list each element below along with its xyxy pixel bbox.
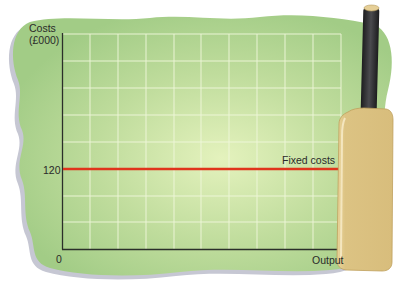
origin-label: 0 xyxy=(56,253,62,265)
x-axis-title: Output xyxy=(312,254,344,266)
fixed-costs-label: Fixed costs xyxy=(282,154,335,166)
chart-panel-background xyxy=(13,15,392,275)
y-tick-label-120: 120 xyxy=(43,164,61,176)
chart-canvas xyxy=(0,0,398,286)
y-axis-title: Costs (£000) xyxy=(29,22,59,46)
bat-blade xyxy=(337,108,393,271)
bat-handle xyxy=(361,8,380,116)
y-axis-title-line2: (£000) xyxy=(29,34,59,46)
bat-handle-cap xyxy=(364,5,379,11)
y-axis-title-line1: Costs xyxy=(29,22,59,34)
